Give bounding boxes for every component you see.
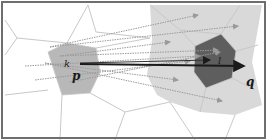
voronoi-diagram: k p l q (0, 0, 267, 140)
label-k: k (64, 58, 70, 69)
label-q: q (246, 75, 254, 89)
label-p: p (72, 69, 81, 83)
label-l: l (218, 55, 221, 66)
diagram-frame: k p l q (0, 0, 267, 140)
